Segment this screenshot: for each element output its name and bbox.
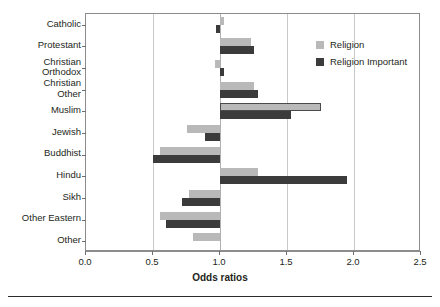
y-tick bbox=[82, 25, 86, 26]
x-tick bbox=[420, 251, 421, 255]
legend-swatch-icon bbox=[316, 41, 324, 49]
y-tick-label-hindu: Hindu bbox=[0, 170, 81, 181]
x-tick bbox=[219, 251, 220, 255]
y-tick-label-other: Other bbox=[0, 235, 81, 246]
y-tick bbox=[82, 111, 86, 112]
gridline-0.5 bbox=[153, 14, 154, 250]
bar-religion-important-hindu bbox=[220, 176, 347, 184]
bar-religion-important-jewish bbox=[205, 133, 220, 141]
y-tick-label-catholic: Catholic bbox=[0, 19, 81, 30]
legend-swatch-icon bbox=[316, 58, 324, 66]
y-tick bbox=[82, 46, 86, 47]
y-tick bbox=[82, 176, 86, 177]
y-tick-label-sikh: Sikh bbox=[0, 192, 81, 203]
y-tick bbox=[82, 133, 86, 134]
x-tick-label: 2.5 bbox=[400, 256, 440, 267]
x-axis-title: Odds ratios bbox=[0, 272, 440, 283]
bar-religion-hindu bbox=[220, 168, 258, 176]
x-tick bbox=[85, 251, 86, 255]
bar-religion-catholic bbox=[220, 17, 224, 25]
x-tick bbox=[152, 251, 153, 255]
y-tick-label-buddhist: Buddhist bbox=[0, 148, 81, 159]
bar-religion-important-christian-orthodox bbox=[220, 68, 224, 76]
y-tick bbox=[82, 220, 86, 221]
bar-religion-important-protestant bbox=[220, 46, 254, 54]
y-tick bbox=[82, 155, 86, 156]
x-tick-label: 1.0 bbox=[199, 256, 239, 267]
x-tick-label: 1.5 bbox=[266, 256, 306, 267]
bar-religion-other-eastern bbox=[160, 212, 220, 220]
legend-label: Religion bbox=[330, 39, 364, 50]
bar-religion-important-other-eastern bbox=[166, 220, 220, 228]
bar-religion-important-muslim bbox=[220, 111, 291, 119]
x-tick-label: 0.0 bbox=[65, 256, 105, 267]
y-tick bbox=[82, 241, 86, 242]
y-tick-label-protestant: Protestant bbox=[0, 40, 81, 51]
bar-religion-important-buddhist bbox=[153, 155, 220, 163]
legend-label: Religion Important bbox=[330, 56, 407, 67]
bar-religion-jewish bbox=[187, 125, 221, 133]
y-tick bbox=[82, 198, 86, 199]
chart-legend: ReligionReligion Important bbox=[316, 39, 407, 73]
y-tick-label-christian-other: Christian Other bbox=[0, 78, 81, 99]
odds-ratio-bar-chart: Odds ratios Religion ReligionReligion Im… bbox=[0, 0, 440, 307]
bar-religion-protestant bbox=[220, 38, 251, 46]
footer-divider bbox=[8, 296, 432, 297]
bar-religion-important-christian-other bbox=[220, 90, 258, 98]
bar-religion-sikh bbox=[189, 190, 220, 198]
y-tick bbox=[82, 90, 86, 91]
y-tick-label-muslim: Muslim bbox=[0, 105, 81, 116]
gridline-1.5 bbox=[287, 14, 288, 250]
legend-item-religion-important: Religion Important bbox=[316, 56, 407, 67]
bar-religion-christian-other bbox=[220, 82, 254, 90]
y-tick bbox=[82, 68, 86, 69]
x-tick-label: 2.0 bbox=[333, 256, 373, 267]
x-axis-line bbox=[85, 251, 420, 252]
x-tick bbox=[353, 251, 354, 255]
y-tick-label-jewish: Jewish bbox=[0, 127, 81, 138]
x-tick-label: 0.5 bbox=[132, 256, 172, 267]
bar-religion-important-catholic bbox=[216, 25, 220, 33]
legend-item-religion: Religion bbox=[316, 39, 407, 50]
bar-religion-other bbox=[193, 233, 220, 241]
y-tick-label-christian-orthodox: Christian Orthodox bbox=[0, 57, 81, 78]
bar-religion-muslim bbox=[220, 103, 321, 111]
x-tick bbox=[286, 251, 287, 255]
bar-religion-christian-orthodox bbox=[215, 60, 220, 68]
y-tick-label-other-eastern: Other Eastern bbox=[0, 213, 81, 224]
bar-religion-buddhist bbox=[160, 147, 220, 155]
bar-religion-important-sikh bbox=[182, 198, 220, 206]
